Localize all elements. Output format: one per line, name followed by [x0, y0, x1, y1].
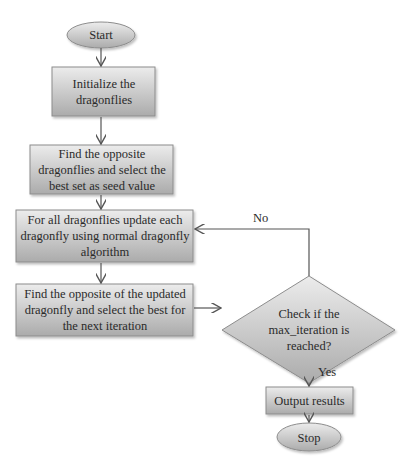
- opposite-seed-label: Find the opposite dragonflies and select…: [34, 145, 170, 194]
- no-label: No: [253, 211, 268, 226]
- start-label: Start: [67, 22, 135, 48]
- check-label: Check if the max_iteration is reached?: [262, 305, 356, 355]
- init-label: Initialize the dragonflies: [56, 67, 152, 116]
- opposite-updated-label: Find the opposite of the updated dragonf…: [20, 284, 190, 336]
- yes-label: Yes: [318, 365, 336, 380]
- update-label: For all dragonflies update each dragonfl…: [20, 210, 190, 262]
- arrow-no-loop: [195, 229, 309, 276]
- output-label: Output results: [266, 387, 353, 414]
- stop-label: Stop: [277, 424, 341, 451]
